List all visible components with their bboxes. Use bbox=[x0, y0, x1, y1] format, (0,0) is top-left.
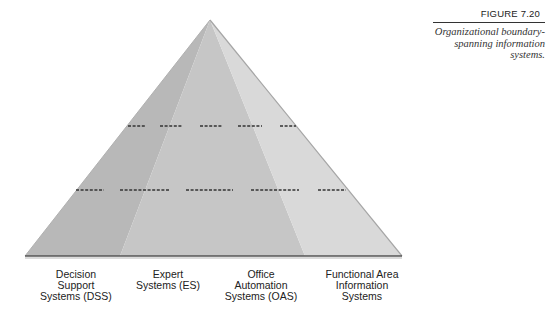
label-oas: Office Automation Systems (OAS) bbox=[206, 269, 316, 302]
caption-line-2: spanning information systems. bbox=[425, 38, 545, 61]
label-dss-line3: Systems (DSS) bbox=[21, 291, 131, 302]
figure-number: FIGURE 7.20 bbox=[425, 8, 545, 19]
label-fais-line3: Systems bbox=[307, 291, 417, 302]
caption-rule bbox=[433, 22, 545, 23]
figure-caption: FIGURE 7.20 Organizational boundary- spa… bbox=[425, 8, 545, 61]
label-functional-area: Functional Area Information Systems bbox=[307, 269, 417, 302]
caption-line-1: Organizational boundary- bbox=[425, 26, 545, 38]
label-oas-line3: Systems (OAS) bbox=[206, 291, 316, 302]
